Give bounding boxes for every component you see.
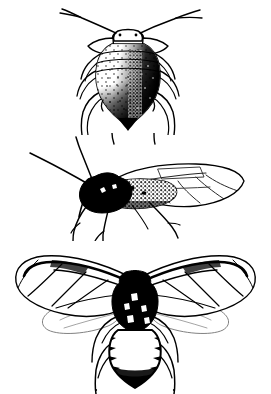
leg-hind-left bbox=[81, 92, 100, 135]
thorax-highlight bbox=[131, 293, 138, 301]
head-shape bbox=[114, 30, 143, 42]
winged-aphid-dorsal-drawing bbox=[0, 238, 271, 394]
figure-wingless-aphid-dorsal bbox=[0, 0, 271, 135]
eye-left-icon bbox=[119, 34, 122, 37]
thorax-highlight bbox=[124, 303, 130, 310]
stray-mark-right bbox=[154, 133, 155, 144]
leg-hind-lateral bbox=[150, 203, 178, 238]
cornicle-left-icon bbox=[102, 100, 104, 111]
cornicle-right-icon bbox=[153, 100, 155, 111]
aphid-illustration-plate bbox=[0, 0, 271, 394]
winged-aphid-lateral-drawing bbox=[0, 133, 271, 241]
eye-right-icon bbox=[135, 34, 138, 37]
thorax-highlight bbox=[144, 317, 150, 324]
cauda-icon bbox=[118, 118, 138, 131]
thorax-shape bbox=[112, 284, 158, 332]
wingless-aphid-drawing bbox=[0, 0, 271, 135]
antenna-lower-icon bbox=[30, 153, 90, 185]
figure-winged-aphid-lateral bbox=[0, 133, 271, 241]
leg-hind-right bbox=[156, 92, 175, 135]
thorax-highlight bbox=[127, 315, 134, 323]
figure-winged-aphid-dorsal bbox=[0, 238, 271, 394]
leg-mid-lateral bbox=[103, 211, 108, 241]
thorax-highlight bbox=[141, 305, 147, 312]
antenna-left-icon bbox=[62, 9, 122, 36]
antenna-right-icon bbox=[134, 10, 200, 36]
stray-mark-left bbox=[112, 133, 114, 144]
antenna-upper-icon bbox=[76, 137, 92, 179]
